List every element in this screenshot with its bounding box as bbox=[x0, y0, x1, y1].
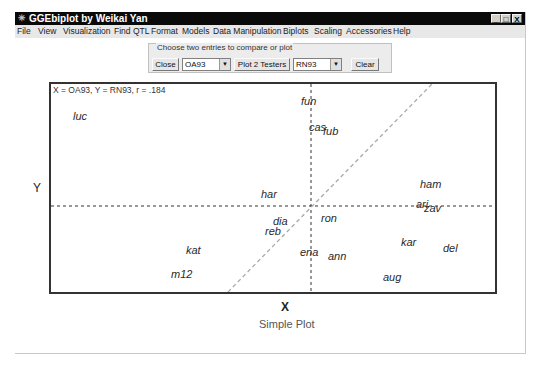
point-label: fun bbox=[301, 95, 316, 107]
menu-bar: File View Visualization Find QTL Format … bbox=[15, 25, 525, 38]
point-label: ena bbox=[300, 246, 318, 258]
menu-accessories[interactable]: Accessories bbox=[346, 25, 392, 38]
point-label: har bbox=[261, 188, 277, 200]
y-entry-select[interactable]: RN93 ▼ bbox=[293, 58, 342, 71]
x-entry-value: OA93 bbox=[185, 59, 205, 70]
menu-help[interactable]: Help bbox=[393, 25, 410, 38]
plot-2-testers-button[interactable]: Plot 2 Testers bbox=[234, 58, 290, 71]
menu-data-manipulation[interactable]: Data Manipulation bbox=[213, 25, 282, 38]
title-bar[interactable]: ✳ GGEbiplot by Weikai Yan _ □ X bbox=[15, 12, 525, 25]
scatter-plot-area: X = OA93, Y = RN93, r = .184 luc fun cas… bbox=[49, 82, 497, 294]
point-label: luc bbox=[73, 110, 87, 122]
menu-scaling[interactable]: Scaling bbox=[314, 25, 342, 38]
menu-format[interactable]: Format bbox=[151, 25, 178, 38]
x-entry-select[interactable]: OA93 ▼ bbox=[182, 58, 231, 71]
point-label: m12 bbox=[171, 268, 192, 280]
y-axis-label: Y bbox=[33, 181, 41, 195]
point-label: ham bbox=[420, 178, 441, 190]
app-window: ✳ GGEbiplot by Weikai Yan _ □ X File Vie… bbox=[15, 12, 526, 354]
plot-title: Simple Plot bbox=[259, 318, 315, 330]
point-label: aug bbox=[383, 271, 401, 283]
point-label: kat bbox=[186, 244, 201, 256]
point-label: reb bbox=[265, 225, 281, 237]
compare-panel: Choose two entries to compare or plot Cl… bbox=[148, 43, 392, 73]
app-icon: ✳ bbox=[18, 14, 27, 23]
point-label: del bbox=[443, 242, 458, 254]
menu-biplots[interactable]: Biplots bbox=[283, 25, 309, 38]
menu-models[interactable]: Models bbox=[182, 25, 209, 38]
close-window-button[interactable]: X bbox=[512, 14, 522, 23]
x-axis-label: X bbox=[281, 300, 289, 314]
menu-file[interactable]: File bbox=[17, 25, 31, 38]
window-title: GGEbiplot by Weikai Yan bbox=[29, 12, 148, 25]
chevron-down-icon[interactable]: ▼ bbox=[219, 59, 230, 70]
maximize-button[interactable]: □ bbox=[501, 14, 511, 23]
minimize-button[interactable]: _ bbox=[491, 14, 501, 23]
point-label: ann bbox=[328, 250, 346, 262]
menu-find-qtl[interactable]: Find QTL bbox=[114, 25, 149, 38]
close-button[interactable]: Close bbox=[152, 58, 179, 71]
point-label: ron bbox=[321, 212, 337, 224]
menu-view[interactable]: View bbox=[38, 25, 56, 38]
chevron-down-icon[interactable]: ▼ bbox=[330, 59, 341, 70]
plot-caption: X = OA93, Y = RN93, r = .184 bbox=[53, 85, 165, 95]
y-entry-value: RN93 bbox=[296, 59, 316, 70]
panel-legend: Choose two entries to compare or plot bbox=[156, 43, 293, 53]
point-label: kar bbox=[401, 236, 416, 248]
menu-visualization[interactable]: Visualization bbox=[63, 25, 111, 38]
clear-button[interactable]: Clear bbox=[351, 58, 379, 71]
point-label: zav bbox=[424, 202, 441, 214]
point-label: fub bbox=[323, 125, 338, 137]
